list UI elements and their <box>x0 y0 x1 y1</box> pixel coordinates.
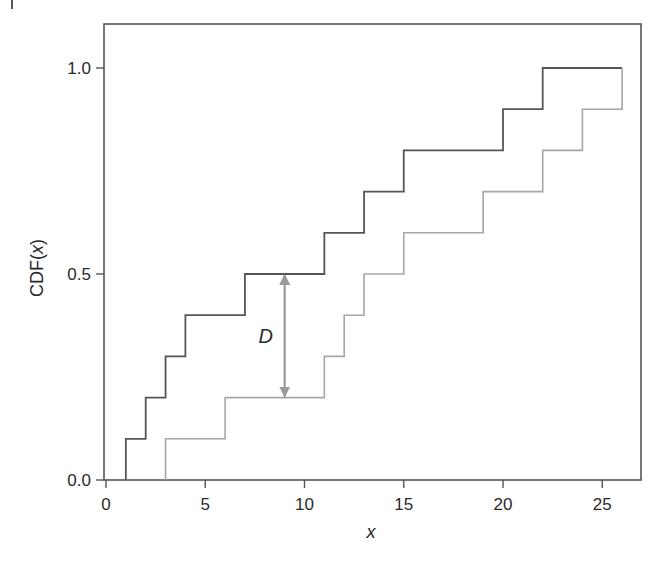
y-tick-label: 1.0 <box>67 59 91 78</box>
y-tick-label: 0.5 <box>67 265 91 284</box>
y-axis-label-prefix: CDF( <box>27 254 47 297</box>
x-tick-label: 25 <box>593 495 612 514</box>
x-tick-label: 5 <box>201 495 210 514</box>
x-tick-label: 15 <box>394 495 413 514</box>
x-tick-label: 10 <box>295 495 314 514</box>
x-tick-label: 0 <box>101 495 110 514</box>
x-axis-label: x <box>366 522 377 542</box>
x-tick-label: 20 <box>494 495 513 514</box>
y-tick-label: 0.0 <box>67 471 91 490</box>
y-axis-label: CDF(x) <box>27 239 47 297</box>
plot-frame <box>104 24 641 480</box>
y-axis-ticks: 0.00.51.0 <box>67 59 104 490</box>
cdf-series-light <box>166 68 623 480</box>
x-axis-ticks: 0510152025 <box>101 480 611 514</box>
cdf-chart: 0.00.51.0 0510152025 D x CDF(x) <box>0 0 670 561</box>
ks-distance-label: D <box>258 325 272 347</box>
y-axis-label-suffix: ) <box>27 239 47 245</box>
